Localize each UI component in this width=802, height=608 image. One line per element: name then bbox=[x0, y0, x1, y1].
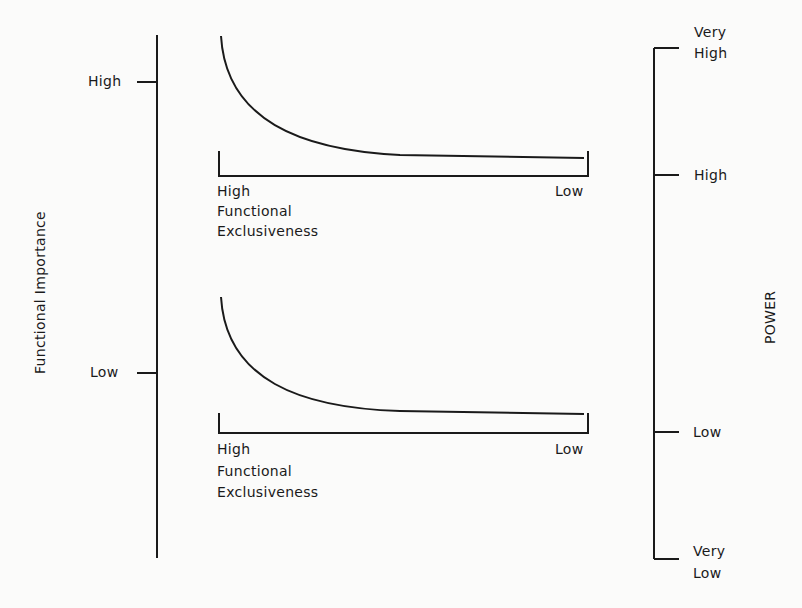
left-tick-label-high: High bbox=[88, 73, 121, 90]
bottom-x-title-line2: Exclusiveness bbox=[217, 484, 318, 501]
diagram-canvas bbox=[0, 0, 802, 608]
power-label-high: High bbox=[694, 167, 727, 184]
left-tick-label-low: Low bbox=[90, 364, 118, 381]
top-x-label-high: High bbox=[217, 183, 250, 200]
bottom-curve bbox=[221, 297, 584, 414]
bottom-x-bracket bbox=[219, 413, 588, 433]
power-label-very-low-line2: Low bbox=[693, 565, 721, 582]
power-label-very-low-line1: Very bbox=[693, 543, 725, 560]
left-axis-title: Functional Importance bbox=[32, 211, 48, 374]
power-label-low: Low bbox=[693, 424, 721, 441]
bottom-x-label-low: Low bbox=[555, 441, 583, 458]
power-axis-title: POWER bbox=[762, 291, 778, 344]
top-x-title-line2: Exclusiveness bbox=[217, 223, 318, 240]
top-x-label-low: Low bbox=[555, 183, 583, 200]
power-label-very-high-line1: Very bbox=[694, 24, 726, 41]
power-label-very-high-line2: High bbox=[694, 45, 727, 62]
top-curve bbox=[221, 36, 584, 158]
bottom-x-title-line1: Functional bbox=[217, 463, 292, 480]
bottom-x-label-high: High bbox=[217, 441, 250, 458]
top-x-title-line1: Functional bbox=[217, 203, 292, 220]
